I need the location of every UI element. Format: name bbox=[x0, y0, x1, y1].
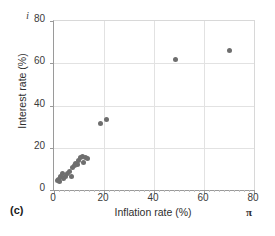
axis-minor-tick bbox=[179, 190, 180, 192]
axis-minor-tick bbox=[119, 190, 120, 192]
axis-minor-tick bbox=[124, 190, 125, 192]
gridline-horizontal bbox=[54, 63, 254, 64]
x-axis-tick-label: 40 bbox=[138, 192, 168, 203]
y-axis-tick-label: 60 bbox=[19, 55, 45, 66]
y-axis-tick bbox=[50, 63, 54, 64]
y-axis-tick-label: 40 bbox=[19, 98, 45, 109]
plot-area bbox=[53, 20, 255, 191]
axis-minor-tick bbox=[134, 190, 135, 192]
axis-minor-tick bbox=[74, 190, 75, 192]
y-axis-tick bbox=[50, 190, 54, 191]
data-point bbox=[227, 48, 232, 53]
y-axis-tick-label: 0 bbox=[19, 182, 45, 193]
axis-minor-tick bbox=[219, 190, 220, 192]
axis-minor-tick bbox=[184, 190, 185, 192]
axis-minor-tick bbox=[129, 190, 130, 192]
data-point bbox=[173, 57, 178, 62]
axis-minor-tick bbox=[169, 190, 170, 192]
x-axis-tick-label: 20 bbox=[88, 192, 118, 203]
y-axis-tick bbox=[50, 21, 54, 22]
gridline-horizontal bbox=[54, 148, 254, 149]
axis-minor-tick bbox=[229, 190, 230, 192]
y-axis-tick bbox=[50, 106, 54, 107]
y-axis-title: Interest rate (%) bbox=[16, 1, 28, 181]
x-axis-tick-label: 80 bbox=[238, 192, 268, 203]
data-point bbox=[85, 156, 90, 161]
y-axis-tick bbox=[50, 148, 54, 149]
scatter-plot-figure: i Inflation rate (%) Interest rate (%) π… bbox=[0, 0, 275, 236]
x-axis-variable-symbol: π bbox=[246, 206, 252, 218]
y-axis-tick-label: 20 bbox=[19, 140, 45, 151]
data-point bbox=[81, 160, 86, 165]
panel-label: (c) bbox=[10, 204, 23, 216]
data-point bbox=[98, 121, 103, 126]
x-axis-title: Inflation rate (%) bbox=[53, 206, 253, 218]
data-point bbox=[104, 117, 109, 122]
axis-minor-tick bbox=[234, 190, 235, 192]
y-axis-tick-label: 80 bbox=[19, 13, 45, 24]
x-axis-tick-label: 0 bbox=[38, 192, 68, 203]
axis-minor-tick bbox=[84, 190, 85, 192]
axis-minor-tick bbox=[224, 190, 225, 192]
data-point bbox=[69, 174, 74, 179]
gridline-horizontal bbox=[54, 106, 254, 107]
axis-minor-tick bbox=[69, 190, 70, 192]
axis-minor-tick bbox=[174, 190, 175, 192]
x-axis-tick-label: 60 bbox=[188, 192, 218, 203]
axis-minor-tick bbox=[79, 190, 80, 192]
